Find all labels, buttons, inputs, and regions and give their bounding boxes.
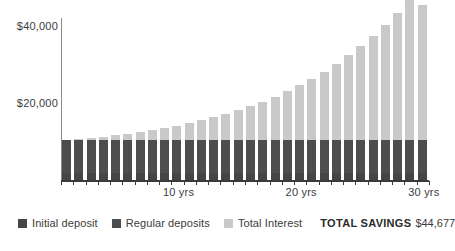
legend-swatch-regular-deposits	[112, 219, 121, 228]
x-tick-25	[368, 181, 369, 185]
x-tick-0	[61, 181, 62, 185]
x-tick-2	[86, 181, 87, 185]
x-tick-22	[331, 181, 332, 185]
x-tick-26	[380, 181, 381, 185]
total-savings-label: TOTAL SAVINGS	[320, 217, 411, 229]
legend-swatch-total-interest	[224, 219, 233, 228]
x-tick-1	[73, 181, 74, 185]
x-tick-28	[404, 181, 405, 185]
total-savings-value: $44,677	[415, 217, 455, 229]
x-tick-23	[343, 181, 344, 185]
legend-item-regular-deposits: Regular deposits	[112, 217, 210, 229]
x-tick-18	[282, 181, 283, 185]
legend-item-total-interest: Total Interest	[224, 217, 302, 229]
total-savings-block: TOTAL SAVINGS $44,677	[320, 217, 455, 229]
x-tick-7	[147, 181, 148, 185]
x-tick-8	[159, 181, 160, 185]
x-tick-24	[355, 181, 356, 185]
x-tick-20	[306, 181, 307, 185]
x-tick-6	[135, 181, 136, 185]
x-tick-21	[319, 181, 320, 185]
x-axis-label-20yrs: 20 yrs	[286, 186, 317, 198]
x-tick-30	[429, 181, 430, 185]
x-axis-label-10yrs: 10 yrs	[163, 186, 194, 198]
x-tick-19	[294, 181, 295, 185]
x-tick-15	[245, 181, 246, 185]
legend-item-initial-deposit: Initial deposit	[18, 217, 98, 229]
x-tick-12	[208, 181, 209, 185]
plot-area: $40,000 $20,000 10 yrs 20 yrs 30 yrs	[0, 0, 440, 205]
x-tick-5	[122, 181, 123, 185]
chart-legend: Initial deposit Regular deposits Total I…	[0, 211, 440, 235]
x-tick-14	[233, 181, 234, 185]
x-tick-11	[196, 181, 197, 185]
y-axis-label-40000: $40,000	[2, 20, 58, 32]
legend-label-total-interest: Total Interest	[238, 217, 302, 229]
legend-label-regular-deposits: Regular deposits	[126, 217, 210, 229]
x-tick-16	[257, 181, 258, 185]
y-axis-label-20000: $20,000	[2, 97, 58, 109]
x-axis-label-30yrs: 30 yrs	[408, 186, 439, 198]
legend-swatch-initial-deposit	[18, 219, 27, 228]
x-tick-10	[184, 181, 185, 185]
legend-label-initial-deposit: Initial deposit	[32, 217, 98, 229]
x-tick-29	[417, 181, 418, 185]
x-tick-4	[110, 181, 111, 185]
x-tick-27	[392, 181, 393, 185]
x-tick-3	[98, 181, 99, 185]
x-tick-9	[171, 181, 172, 185]
x-tick-13	[220, 181, 221, 185]
x-tick-17	[270, 181, 271, 185]
bar-series-container	[62, 0, 430, 181]
x-axis-ticks	[62, 181, 430, 187]
